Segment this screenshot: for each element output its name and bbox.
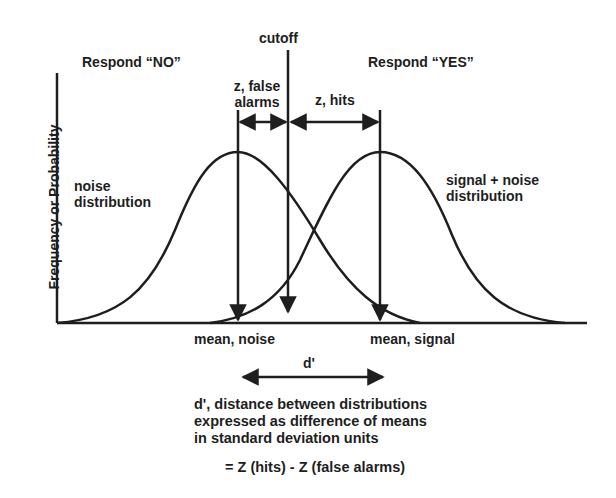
dprime-description: d', distance between distributions expre… (194, 396, 427, 447)
dprime-formula: = Z (hits) - Z (false alarms) (225, 459, 405, 475)
mean-signal-label: mean, signal (370, 331, 455, 347)
y-axis-label: Frequency or Probability (46, 102, 64, 312)
z-hits-label: z, hits (315, 92, 355, 108)
respond-yes-label: Respond “YES” (368, 54, 474, 70)
signal-noise-distribution-label: signal + noise distribution (446, 172, 539, 204)
respond-no-label: Respond “NO” (82, 54, 181, 70)
noise-distribution-label: noise distribution (74, 178, 151, 210)
cutoff-label: cutoff (259, 30, 298, 46)
mean-noise-label: mean, noise (194, 331, 275, 347)
dprime-label: d' (303, 355, 315, 371)
z-false-alarms-label: z, false alarms (227, 78, 287, 110)
